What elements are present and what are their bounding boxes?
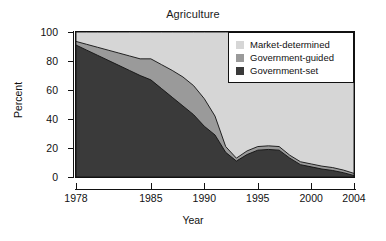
legend-item-government-guided: Government-guided	[236, 51, 347, 64]
legend-label-market-determined: Market-determined	[250, 39, 330, 50]
y-axis-tick-label: 20	[14, 142, 58, 154]
legend-swatch-government-guided	[236, 54, 244, 62]
y-axis-tick	[68, 32, 74, 33]
y-axis-title: Percent	[12, 60, 24, 140]
x-axis-title: Year	[0, 214, 386, 226]
y-axis-tick	[68, 148, 74, 149]
x-axis-tick-label: 2004	[324, 192, 384, 204]
y-axis-tick	[68, 177, 74, 178]
legend-item-government-set: Government-set	[236, 64, 347, 77]
legend-label-government-set: Government-set	[250, 65, 318, 76]
legend-item-market-determined: Market-determined	[236, 38, 347, 51]
y-axis-tick	[68, 61, 74, 62]
chart-legend: Market-determined Government-guided Gove…	[228, 32, 354, 83]
x-axis-tick	[354, 183, 355, 190]
chart-figure: Agriculture Percent Year Market-determin…	[0, 0, 386, 241]
x-axis-tick	[204, 183, 205, 190]
x-axis-tick-label: 1985	[121, 192, 181, 204]
x-axis-tick	[151, 183, 152, 190]
legend-swatch-government-set	[236, 67, 244, 75]
x-axis	[75, 178, 356, 191]
x-axis-tick-label: 1990	[174, 192, 234, 204]
y-axis-line	[73, 31, 74, 178]
y-axis-tick-label: 40	[14, 113, 58, 125]
legend-label-government-guided: Government-guided	[250, 52, 334, 63]
y-axis	[62, 31, 75, 178]
x-axis-tick	[258, 183, 259, 190]
x-axis-line	[75, 189, 356, 190]
y-axis-tick-label: 100	[14, 26, 58, 38]
y-axis-tick	[68, 90, 74, 91]
x-axis-tick	[311, 183, 312, 190]
y-axis-tick	[68, 119, 74, 120]
chart-title: Agriculture	[0, 8, 386, 20]
y-axis-tick-label: 60	[14, 84, 58, 96]
x-axis-tick-label: 1978	[46, 192, 106, 204]
y-axis-tick-label: 80	[14, 55, 58, 67]
y-axis-tick-label: 0	[14, 171, 58, 183]
legend-swatch-market-determined	[236, 41, 244, 49]
x-axis-tick	[76, 183, 77, 190]
x-axis-tick-label: 1995	[228, 192, 288, 204]
